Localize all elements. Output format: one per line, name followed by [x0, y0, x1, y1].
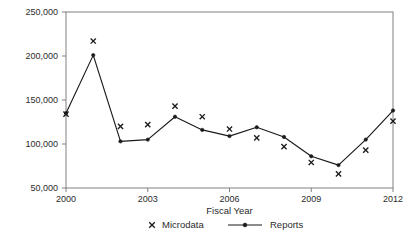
y-tick-label: 200,000 [25, 51, 58, 61]
x-axis-title: Fiscal Year [206, 205, 252, 216]
reports-point [364, 138, 367, 141]
reports-point [228, 134, 231, 137]
reports-point [119, 140, 122, 143]
microdata-point [363, 148, 368, 153]
x-tick-label: 2003 [138, 194, 158, 204]
x-tick-label: 2006 [219, 194, 239, 204]
microdata-point [254, 135, 259, 140]
legend-label-reports: Reports [270, 219, 304, 230]
reports-point [64, 112, 67, 115]
y-tick-label: 250,000 [25, 7, 58, 17]
reports-point [146, 138, 149, 141]
microdata-point [309, 160, 314, 165]
y-tick-label: 150,000 [25, 95, 58, 105]
legend-reports-dot [243, 223, 247, 227]
reports-point [255, 126, 258, 129]
reports-point [310, 155, 313, 158]
reports-point [92, 53, 95, 56]
reports-point [282, 135, 285, 138]
reports-point [391, 109, 394, 112]
reports-point [337, 163, 340, 166]
legend-microdata-icon [149, 222, 155, 228]
microdata-point [91, 38, 96, 43]
series-points-microdata [63, 38, 395, 176]
legend-label-microdata: Microdata [162, 219, 204, 230]
x-tick-label: 2009 [301, 194, 321, 204]
microdata-point [227, 126, 232, 131]
x-tick-label: 2012 [383, 194, 403, 204]
chart-legend: MicrodataReports [149, 219, 303, 230]
chart-canvas: 50,000100,000150,000200,000250,000200020… [0, 0, 410, 246]
x-tick-label: 2000 [56, 194, 76, 204]
microdata-point [200, 114, 205, 119]
y-tick-label: 50,000 [30, 183, 58, 193]
plot-frame [66, 12, 393, 188]
microdata-point [118, 124, 123, 129]
series-points-reports [64, 53, 394, 166]
chart-figure: 50,000100,000150,000200,000250,000200020… [0, 0, 410, 246]
microdata-point [172, 104, 177, 109]
microdata-point [336, 171, 341, 176]
microdata-point [145, 122, 150, 127]
reports-point [201, 128, 204, 131]
microdata-point [281, 144, 286, 149]
y-tick-label: 100,000 [25, 139, 58, 149]
series-line-reports [66, 55, 393, 165]
reports-point [173, 115, 176, 118]
